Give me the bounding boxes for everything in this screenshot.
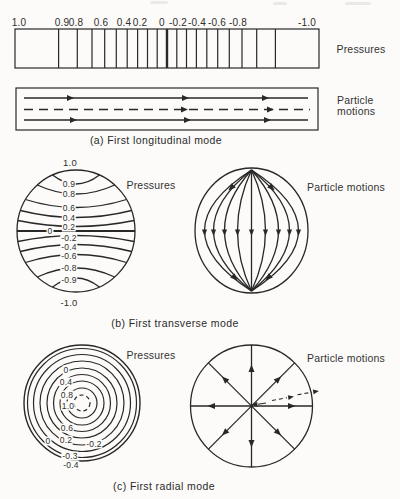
transverse-particle-circle bbox=[195, 168, 308, 293]
longitudinal-particle-bar bbox=[16, 88, 318, 130]
radial-particle-circle bbox=[191, 345, 320, 467]
transverse-min-value: -1.0 bbox=[60, 297, 77, 308]
ring-value-label: 0.8 bbox=[60, 391, 74, 400]
contour-value-label: 0.6 bbox=[62, 203, 76, 212]
caption-longitudinal-mode: (a) First longitudinal mode bbox=[90, 135, 222, 146]
contour-value-label: -0.6 bbox=[60, 251, 77, 260]
radial-pressure-circle bbox=[24, 345, 140, 461]
contour-value-label: 0.8 bbox=[62, 189, 76, 198]
caption-radial-mode: (c) First radial mode bbox=[113, 481, 215, 492]
ring-value-label: 0.4 bbox=[59, 378, 73, 387]
contour-value-label: 0.2 bbox=[62, 222, 76, 231]
pressures-label-a: Pressures bbox=[336, 44, 385, 55]
ring-value-label: -0.2 bbox=[85, 440, 102, 449]
pressure-scale-label: -0.6 bbox=[208, 17, 226, 28]
contour-value-label: -0.8 bbox=[60, 264, 77, 273]
pressure-scale-label: -0.2 bbox=[169, 17, 187, 28]
ring-value-label: 0.2 bbox=[59, 436, 73, 445]
pressure-scale-label: 0.6 bbox=[94, 17, 109, 28]
caption-transverse-mode: (b) First transverse mode bbox=[111, 318, 238, 329]
pressure-scale-label: -1.0 bbox=[298, 17, 316, 28]
transverse-max-value: 1.0 bbox=[63, 157, 77, 168]
ring-value-label: 0.6 bbox=[60, 424, 74, 433]
pressure-scale-label: 0.8 bbox=[69, 17, 84, 28]
pressures-label-b: Pressures bbox=[126, 180, 175, 191]
pressure-scale-label: 0.4 bbox=[117, 17, 132, 28]
ring-zero-label: 0 bbox=[45, 437, 52, 446]
pressure-scale-label: -0.4 bbox=[188, 17, 206, 28]
particle-motions-label-a: Particle motions bbox=[337, 95, 387, 117]
textbook-figure-page: 1.0 0.9 0.8 0.6 0.4 0.2 0 -0.2 -0.4 -0.6… bbox=[0, 0, 400, 499]
ring-center-value: 1.0 bbox=[61, 402, 75, 411]
pressure-scale-label: -0.8 bbox=[229, 17, 247, 28]
contour-zero-label: 0 bbox=[47, 227, 54, 236]
pressures-label-c: Pressures bbox=[126, 350, 175, 361]
longitudinal-pressure-bar bbox=[15, 29, 319, 68]
pressure-scale-label: 0.2 bbox=[133, 17, 148, 28]
pressure-scale-label: 1.0 bbox=[12, 17, 27, 28]
particle-motions-label-c: Particle motions bbox=[307, 353, 385, 364]
ring-value-label: -0.4 bbox=[62, 461, 79, 470]
particle-motions-label-b: Particle motions bbox=[307, 182, 385, 193]
ring-value-label: 0 bbox=[63, 366, 70, 375]
pressure-scale-label: 0 bbox=[159, 17, 165, 28]
contour-value-label: -0.9 bbox=[60, 275, 77, 284]
pressure-scale-label: 0.9 bbox=[55, 17, 70, 28]
